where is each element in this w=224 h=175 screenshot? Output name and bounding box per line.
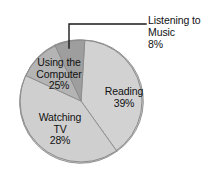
slice-label-reading-name: Reading (97, 86, 151, 98)
slice-label-listening-to-music: Listening to Music 8% (148, 14, 222, 50)
pie-chart-figure: Reading 39% Watching TV 28% Using the Co… (0, 0, 224, 175)
slice-label-watching-tv-name-line1: Watching (27, 112, 93, 124)
slice-label-listening-to-music-name-line1: Listening to (148, 14, 222, 26)
slice-label-watching-tv-value: 28% (27, 135, 93, 147)
slice-label-listening-to-music-value: 8% (148, 38, 222, 50)
slice-label-watching-tv: Watching TV 28% (27, 112, 93, 147)
slice-label-using-the-computer-value: 25% (21, 80, 97, 92)
slice-label-using-the-computer: Using the Computer 25% (21, 57, 97, 92)
slice-label-reading-value: 39% (97, 98, 151, 110)
slice-label-reading: Reading 39% (97, 86, 151, 109)
slice-label-using-the-computer-name-line1: Using the (21, 57, 97, 69)
slice-label-listening-to-music-name-line2: Music (148, 26, 222, 38)
